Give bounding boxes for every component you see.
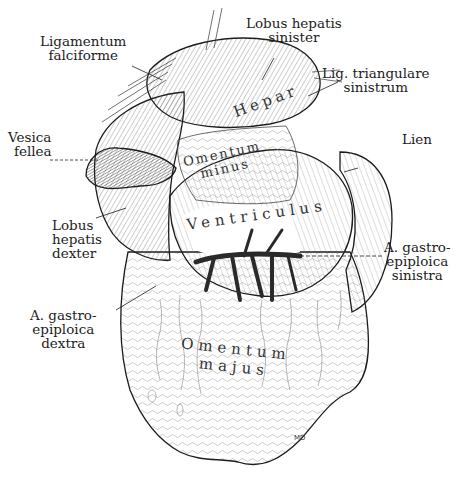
- label-line: fellea: [8, 144, 52, 158]
- label-line: hepatis: [52, 232, 102, 246]
- label-line: Vesica: [8, 130, 52, 144]
- label-line: dextra: [30, 336, 97, 350]
- label-line: Lien: [402, 132, 432, 146]
- label-line: Ligamentum: [40, 34, 126, 48]
- label-lobus-hepatis-sinister: Lobus hepatis sinister: [246, 16, 342, 44]
- label-line: sinister: [246, 30, 342, 44]
- label-line: dexter: [52, 246, 102, 260]
- label-vesica-fellea: Vesica fellea: [8, 130, 52, 158]
- label-lig-triangulare-sinistrum: Lig. triangulare sinistrum: [322, 66, 430, 94]
- label-line: Lobus hepatis: [246, 16, 342, 30]
- label-line: A. gastro-: [384, 240, 451, 254]
- label-line: Lobus: [52, 218, 102, 232]
- label-line: sinistrum: [322, 80, 430, 94]
- label-lobus-hepatis-dexter: Lobus hepatis dexter: [52, 218, 102, 260]
- label-line: Lig. triangulare: [322, 66, 430, 80]
- label-line: sinistra: [384, 268, 451, 282]
- artist-signature: MD: [294, 434, 305, 442]
- label-line: A. gastro-: [30, 308, 97, 322]
- label-ligamentum-falciforme: Ligamentum falciforme: [40, 34, 126, 62]
- label-line: epiploica: [30, 322, 97, 336]
- label-lien: Lien: [402, 132, 432, 146]
- label-a-gastroepiploica-dextra: A. gastro- epiploica dextra: [30, 308, 97, 350]
- anatomy-figure: Ligamentum falciforme Lobus hepatis sini…: [0, 0, 472, 486]
- label-a-gastroepiploica-sinistra: A. gastro- epiploica sinistra: [384, 240, 451, 282]
- label-line: epiploica: [384, 254, 451, 268]
- label-line: falciforme: [40, 48, 126, 62]
